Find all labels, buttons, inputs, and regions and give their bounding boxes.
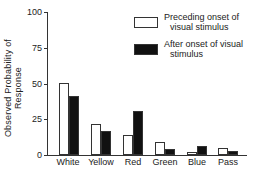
bar-red-filled [133, 111, 143, 155]
bar-green-filled [165, 149, 175, 155]
bar-pass-open [218, 148, 228, 155]
bar-yellow-filled [101, 131, 111, 155]
y-tick-label: 50 [22, 79, 42, 89]
legend-swatch-filled [134, 44, 158, 55]
y-tick-label: 25 [22, 114, 42, 124]
legend-label-preceding: Preceding onset of visual stimulus [164, 12, 253, 32]
y-axis [47, 12, 48, 155]
bar-blue-open [187, 152, 197, 155]
bar-blue-filled [197, 146, 207, 155]
y-tick [44, 48, 47, 49]
bar-red-open [123, 135, 133, 155]
bar-white-filled [69, 96, 79, 155]
category-label: Pass [208, 157, 248, 167]
y-tick [44, 119, 47, 120]
legend-swatch-open [134, 17, 158, 28]
legend-label-after: After onset of visual stimulus [164, 39, 253, 59]
bar-pass-filled [228, 151, 238, 155]
bar-yellow-open [91, 124, 101, 155]
y-tick-label: 0 [22, 150, 42, 160]
y-axis-label: Observed Probability of Response [3, 23, 23, 153]
x-axis [47, 155, 247, 156]
bar-green-open [155, 142, 165, 155]
bar-white-open [59, 83, 69, 155]
y-tick [44, 12, 47, 13]
y-tick-label: 75 [22, 43, 42, 53]
y-tick-label: 100 [22, 7, 42, 17]
y-tick [44, 155, 47, 156]
y-tick [44, 84, 47, 85]
